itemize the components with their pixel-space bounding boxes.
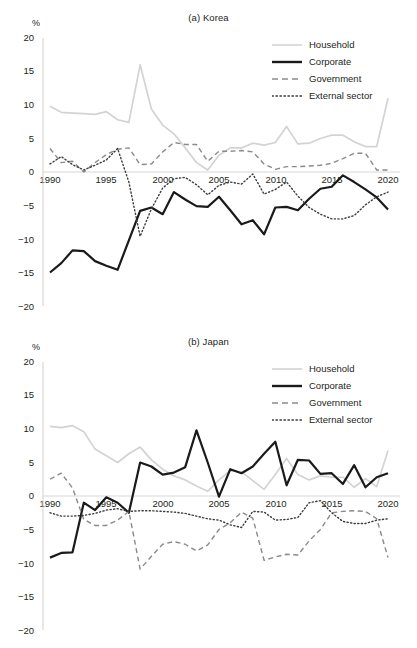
legend-label-external-sector: External sector bbox=[309, 90, 372, 101]
legend-label-household: Household bbox=[309, 363, 354, 374]
legend-key-household-icon bbox=[272, 364, 302, 374]
legend-key-external-sector-icon bbox=[272, 91, 302, 101]
legend-label-household: Household bbox=[309, 39, 354, 50]
legend-label-corporate: Corporate bbox=[309, 56, 351, 67]
legend-item-government: Government bbox=[272, 70, 412, 87]
series-line-corporate bbox=[50, 430, 388, 557]
legend-item-household: Household bbox=[272, 360, 412, 377]
legend-label-external-sector: External sector bbox=[309, 414, 372, 425]
legend-item-government: Government bbox=[272, 394, 412, 411]
legend-item-corporate: Corporate bbox=[272, 53, 412, 70]
legend-label-government: Government bbox=[309, 73, 361, 84]
legend-key-household-icon bbox=[272, 40, 302, 50]
series-line-external-sector bbox=[50, 149, 388, 237]
legend-item-external-sector: External sector bbox=[272, 411, 412, 428]
series-line-government bbox=[50, 473, 388, 569]
legend-key-government-icon bbox=[272, 74, 302, 84]
series-line-government bbox=[50, 143, 388, 172]
series-line-corporate bbox=[50, 175, 388, 272]
chart-panel-korea: (a) Korea % 20 15 10 5 0 −5 −10 −15 −20 … bbox=[0, 0, 417, 324]
legend-japan: Household Corporate Government External … bbox=[272, 360, 412, 428]
legend-korea: Household Corporate Government External … bbox=[272, 36, 412, 104]
legend-key-external-sector-icon bbox=[272, 415, 302, 425]
legend-key-government-icon bbox=[272, 398, 302, 408]
legend-item-external-sector: External sector bbox=[272, 87, 412, 104]
legend-item-household: Household bbox=[272, 36, 412, 53]
legend-label-government: Government bbox=[309, 397, 361, 408]
legend-label-corporate: Corporate bbox=[309, 380, 351, 391]
legend-key-corporate-icon bbox=[272, 381, 302, 391]
series-line-household bbox=[50, 426, 388, 492]
legend-key-corporate-icon bbox=[272, 57, 302, 67]
chart-panel-japan: (b) Japan % 20 15 10 5 0 −5 −10 −15 −20 … bbox=[0, 324, 417, 648]
legend-item-corporate: Corporate bbox=[272, 377, 412, 394]
